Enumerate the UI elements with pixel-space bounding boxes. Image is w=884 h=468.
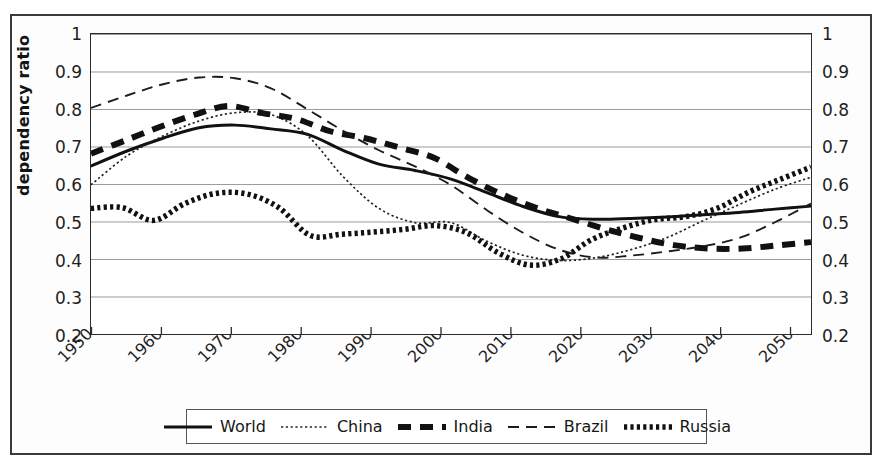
legend-entry-india[interactable]: India bbox=[396, 417, 493, 436]
series-lines bbox=[91, 34, 811, 334]
plot-area bbox=[90, 33, 812, 335]
legend-entry-china[interactable]: China bbox=[279, 417, 383, 436]
y-axis-title: dependency ratio bbox=[14, 35, 33, 196]
legend-entry-russia[interactable]: Russia bbox=[622, 417, 731, 436]
chart-figure: dependency ratio 0.20.30.40.50.60.70.80.… bbox=[0, 0, 884, 468]
legend-swatch-dashed-thin bbox=[506, 420, 558, 434]
legend-label: Brazil bbox=[564, 417, 609, 436]
series-line-china bbox=[91, 112, 811, 261]
chart-legend: WorldChinaIndiaBrazilRussia bbox=[186, 409, 707, 444]
legend-swatch-solid bbox=[162, 420, 214, 434]
legend-entry-brazil[interactable]: Brazil bbox=[506, 417, 609, 436]
series-line-world bbox=[91, 125, 811, 219]
legend-label: World bbox=[220, 417, 266, 436]
legend-swatch-dashed-thick bbox=[396, 420, 448, 434]
legend-swatch-dotted-thick bbox=[622, 420, 674, 434]
legend-label: Russia bbox=[680, 417, 731, 436]
legend-entry-world[interactable]: World bbox=[162, 417, 266, 436]
legend-label: China bbox=[337, 417, 383, 436]
legend-label: India bbox=[454, 417, 493, 436]
legend-swatch-dotted-fine bbox=[279, 420, 331, 434]
